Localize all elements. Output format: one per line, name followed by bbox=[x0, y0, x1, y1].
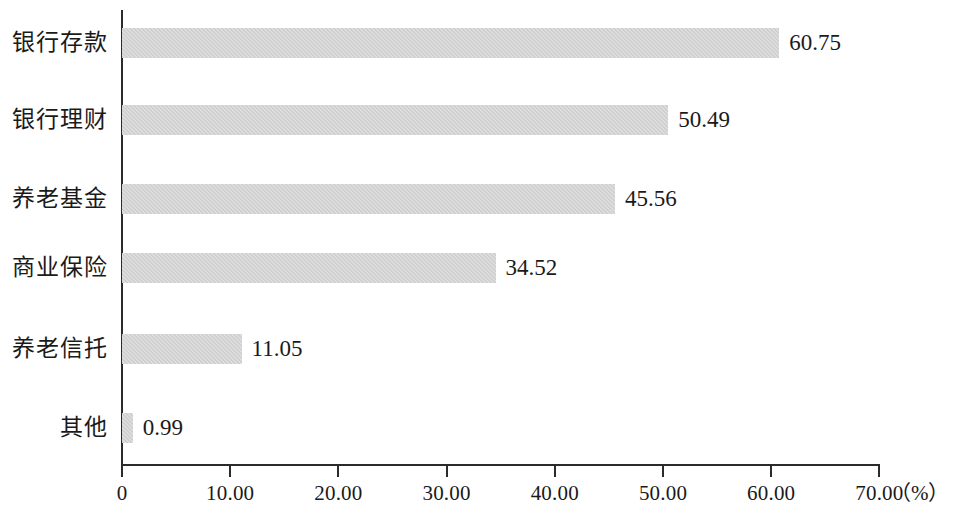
x-axis-tick bbox=[446, 466, 448, 477]
bar bbox=[122, 28, 779, 58]
bar bbox=[122, 413, 133, 443]
bar-row: 银行存款60.75 bbox=[0, 28, 962, 58]
x-axis-tick bbox=[878, 466, 880, 477]
x-axis-tick bbox=[662, 466, 664, 477]
category-label: 养老基金 bbox=[12, 185, 108, 213]
category-label: 商业保险 bbox=[12, 254, 108, 282]
bar-row: 商业保险34.52 bbox=[0, 253, 962, 283]
x-axis-tick bbox=[770, 466, 772, 477]
bar-chart: 010.0020.0030.0040.0050.0060.0070.00 （%）… bbox=[0, 0, 962, 511]
bar-value-label: 11.05 bbox=[252, 336, 303, 362]
category-label: 银行理财 bbox=[12, 106, 108, 134]
x-axis-tick bbox=[337, 466, 339, 477]
bar bbox=[122, 334, 242, 364]
category-label: 其他 bbox=[60, 414, 108, 442]
bar-value-label: 34.52 bbox=[506, 255, 558, 281]
x-axis-tick-label: 0 bbox=[117, 481, 128, 505]
x-axis-tick-label: 40.00 bbox=[531, 481, 579, 505]
category-label: 银行存款 bbox=[12, 29, 108, 57]
bar-row: 养老信托11.05 bbox=[0, 334, 962, 364]
bar-value-label: 45.56 bbox=[625, 186, 677, 212]
x-axis-unit-label: （%） bbox=[890, 481, 950, 505]
bar bbox=[122, 253, 496, 283]
x-axis-tick-label: 50.00 bbox=[639, 481, 687, 505]
x-axis-tick-label: 20.00 bbox=[314, 481, 362, 505]
bar-value-label: 50.49 bbox=[678, 107, 730, 133]
bar-value-label: 0.99 bbox=[143, 415, 183, 441]
bar-value-label: 60.75 bbox=[789, 30, 841, 56]
bar-row: 其他0.99 bbox=[0, 413, 962, 443]
bar bbox=[122, 184, 615, 214]
bar-row: 银行理财50.49 bbox=[0, 105, 962, 135]
x-axis-tick-label: 60.00 bbox=[747, 481, 795, 505]
x-axis-tick-label: 10.00 bbox=[206, 481, 254, 505]
x-axis-tick-label: 30.00 bbox=[422, 481, 470, 505]
x-axis-line bbox=[121, 464, 880, 466]
y-axis-line bbox=[121, 10, 123, 466]
x-axis-tick bbox=[121, 466, 123, 477]
x-axis-tick bbox=[229, 466, 231, 477]
bar-row: 养老基金45.56 bbox=[0, 184, 962, 214]
x-axis-tick bbox=[554, 466, 556, 477]
bar bbox=[122, 105, 668, 135]
category-label: 养老信托 bbox=[12, 335, 108, 363]
